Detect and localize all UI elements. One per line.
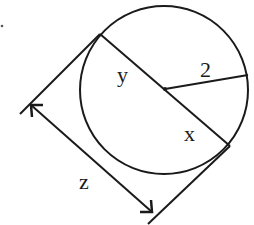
label-x: x [184,121,195,146]
stray-dot [1,25,4,28]
tangent-line-upper [20,34,100,114]
label-radius: 2 [200,57,211,82]
geometry-diagram: y 2 x z [0,0,254,225]
label-y: y [117,62,128,87]
z-dimension-line [31,105,152,212]
tangent-line-lower [148,146,230,224]
label-z: z [79,169,89,194]
